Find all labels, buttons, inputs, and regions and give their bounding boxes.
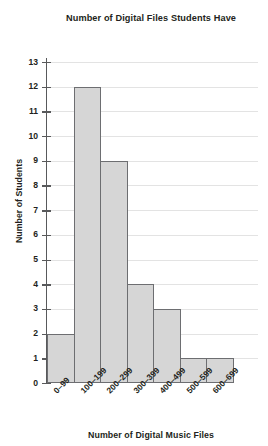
bar — [74, 87, 102, 383]
y-tick-label: 3 — [22, 304, 38, 313]
y-tick-mark — [42, 62, 51, 63]
y-axis-title: Number of Students — [14, 151, 24, 251]
y-tick-label: 11 — [22, 107, 38, 116]
y-tick-label: 9 — [22, 156, 38, 165]
bar — [100, 161, 128, 383]
y-tick-mark — [42, 210, 51, 211]
y-tick-mark — [42, 136, 51, 137]
y-tick-label: 0 — [22, 379, 38, 388]
y-tick-label: 6 — [22, 230, 38, 239]
y-tick-mark — [42, 309, 51, 310]
y-tick-label: 2 — [22, 329, 38, 338]
y-tick-label: 12 — [22, 82, 38, 91]
histogram-chart: Number of Digital Files Students Have 01… — [0, 0, 268, 446]
y-tick-label: 4 — [22, 280, 38, 289]
y-tick-label: 13 — [22, 58, 38, 67]
bar — [47, 334, 75, 383]
chart-title: Number of Digital Files Students Have — [40, 12, 262, 24]
y-tick-label: 8 — [22, 181, 38, 190]
y-tick-label: 7 — [22, 206, 38, 215]
x-axis-title: Number of Digital Music Files — [40, 430, 262, 440]
y-tick-label: 1 — [22, 354, 38, 363]
y-tick-mark — [42, 383, 51, 384]
y-tick-label: 5 — [22, 255, 38, 264]
y-tick-mark — [42, 87, 51, 88]
y-tick-mark — [42, 111, 51, 112]
y-tick-mark — [42, 235, 51, 236]
y-tick-mark — [42, 161, 51, 162]
y-tick-mark — [42, 284, 51, 285]
gridline — [47, 62, 258, 63]
y-tick-label: 10 — [22, 132, 38, 141]
y-tick-mark — [42, 260, 51, 261]
y-tick-mark — [42, 185, 51, 186]
